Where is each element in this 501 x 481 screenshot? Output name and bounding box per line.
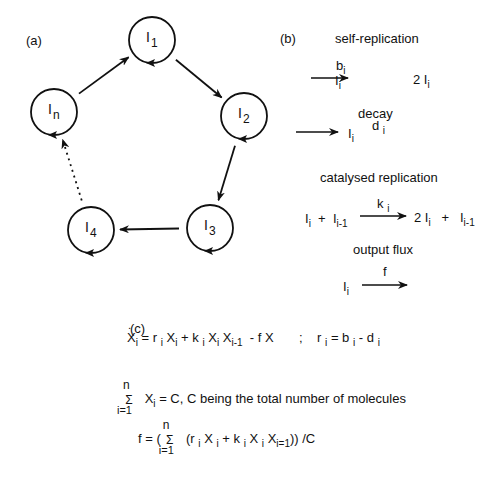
node-i3: I3 <box>187 205 233 255</box>
equation-output-flux: f = ( n Σ i=1 (r i X i + k i X i Xi=1)) … <box>138 432 315 446</box>
reaction-title-output-flux: output flux <box>353 243 413 256</box>
catalysed-replication-rhs: 2 Ii + Ii-1 <box>414 211 475 224</box>
svg-text:2: 2 <box>243 112 250 126</box>
self-replication-rate: bi <box>336 59 345 72</box>
decay-rate: d i <box>372 119 385 132</box>
svg-text:1: 1 <box>151 36 158 50</box>
equation-total-molecules: n Σ i=1 Xi = C, C being the total number… <box>117 392 406 406</box>
edge-i3-to-i4 <box>120 229 179 230</box>
svg-text:I: I <box>146 29 150 45</box>
decay-lhs: Ii <box>348 127 354 140</box>
output-flux-rate: f <box>383 265 387 278</box>
catalysed-replication-rate: k i <box>377 197 389 210</box>
equation-rate-of-change: . Xi = r i Xi + k i Xi Xi-1 - f X ; r i … <box>127 331 380 344</box>
edge-i2-to-i3 <box>218 146 235 201</box>
edge-in-to-i1 <box>79 57 129 93</box>
reaction-title-catalysed-replication: catalysed replication <box>320 171 438 184</box>
node-in: In <box>31 89 77 139</box>
svg-text:I: I <box>238 105 242 121</box>
reaction-title-self-replication: self-replication <box>335 32 419 45</box>
node-i2: I2 <box>221 93 267 143</box>
panel-a-label: (a) <box>26 34 42 47</box>
edge-i4-to-in <box>63 140 82 201</box>
panel-b-label: (b) <box>280 32 296 45</box>
svg-text:I: I <box>85 219 89 235</box>
svg-text:I: I <box>48 101 52 117</box>
cycle-nodes: I1I2I3I4In <box>31 17 267 257</box>
edge-i1-to-i2 <box>176 60 222 98</box>
node-i1: I1 <box>129 17 175 67</box>
output-flux-lhs: Ii <box>343 280 349 293</box>
svg-text:I: I <box>204 217 208 233</box>
svg-text:n: n <box>53 108 60 122</box>
svg-text:4: 4 <box>90 226 97 240</box>
self-replication-rhs: 2 Ii <box>413 73 430 86</box>
cycle-edges <box>63 57 235 229</box>
svg-text:3: 3 <box>209 224 216 238</box>
catalysed-replication-lhs: Ii + Ii-1 <box>305 212 348 225</box>
self-replication-lhs: Ii <box>335 74 341 87</box>
node-i4: I4 <box>68 207 114 257</box>
